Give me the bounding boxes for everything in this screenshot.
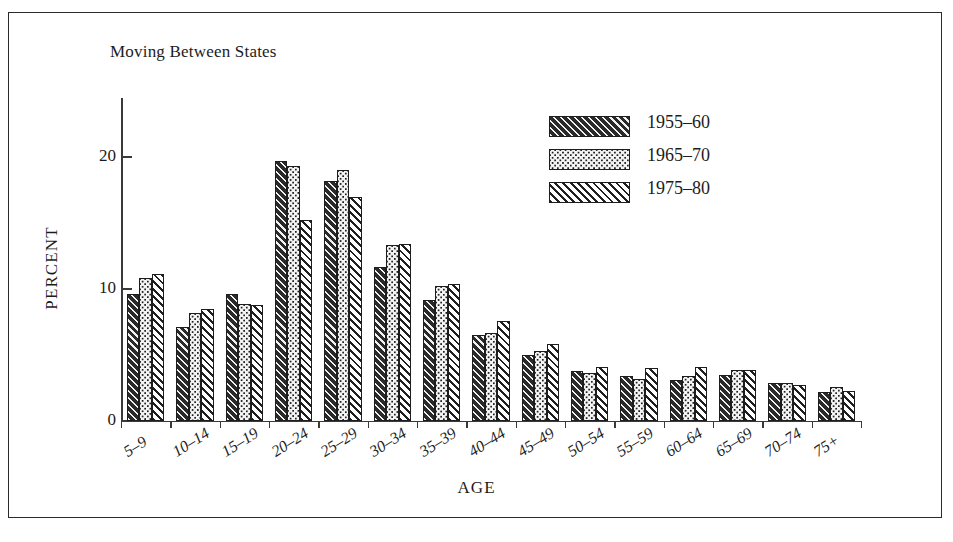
x-tick — [466, 421, 467, 428]
bar — [818, 392, 830, 421]
bar — [534, 351, 546, 421]
bar — [201, 309, 213, 421]
bar — [596, 367, 608, 421]
x-tick — [516, 421, 517, 428]
figure-root: Moving Between States 01020 PERCENT AGE … — [0, 0, 953, 542]
x-tick-label: 5–9 — [120, 433, 150, 461]
x-tick — [565, 421, 566, 428]
x-tick-label: 10–14 — [169, 424, 212, 460]
bar — [497, 321, 509, 421]
bar — [176, 327, 188, 421]
x-tick-label: 45–49 — [515, 424, 558, 460]
bar — [633, 379, 645, 421]
bar — [695, 367, 707, 421]
bar — [793, 385, 805, 421]
legend-swatch — [549, 116, 630, 137]
x-tick — [170, 421, 171, 428]
x-tick-label: 75+ — [811, 431, 843, 460]
x-axis-title: AGE — [0, 478, 953, 498]
bar — [731, 370, 743, 421]
plot-area: 01020 PERCENT AGE 5–910–1415–1920–2425–2… — [0, 0, 953, 542]
bar — [571, 371, 583, 421]
x-tick — [121, 421, 122, 428]
legend-label: 1975–80 — [647, 178, 710, 199]
bar — [399, 244, 411, 421]
x-tick — [220, 421, 221, 428]
x-tick — [762, 421, 763, 428]
bar — [744, 370, 756, 421]
x-tick — [664, 421, 665, 428]
x-tick-label: 60–64 — [663, 424, 706, 460]
bar — [620, 376, 632, 421]
bar — [337, 170, 349, 421]
bar — [300, 220, 312, 421]
bar — [583, 373, 595, 421]
bar — [349, 197, 361, 421]
x-tick — [269, 421, 270, 428]
x-tick-label: 25–29 — [317, 424, 360, 460]
bar — [287, 166, 299, 421]
bar — [485, 333, 497, 421]
bar — [386, 245, 398, 421]
bar — [139, 278, 151, 421]
bars-layer — [0, 0, 953, 421]
bar — [843, 391, 855, 421]
x-tick-label: 15–19 — [219, 424, 262, 460]
bar — [275, 161, 287, 421]
bar — [547, 344, 559, 421]
bar — [781, 383, 793, 421]
legend-label: 1965–70 — [647, 145, 710, 166]
x-tick-label: 65–69 — [712, 424, 755, 460]
legend-swatch — [549, 182, 630, 203]
legend-swatch — [549, 149, 630, 170]
bar — [251, 305, 263, 421]
x-tick — [318, 421, 319, 428]
x-tick — [861, 421, 862, 428]
x-tick-label: 20–24 — [268, 424, 311, 460]
x-tick — [614, 421, 615, 428]
bar — [423, 300, 435, 421]
x-tick-label: 70–74 — [761, 424, 804, 460]
bar — [670, 380, 682, 421]
x-tick — [417, 421, 418, 428]
bar — [448, 284, 460, 421]
bar — [374, 267, 386, 421]
bar — [522, 355, 534, 421]
bar — [189, 313, 201, 421]
bar — [472, 335, 484, 421]
bar — [645, 368, 657, 421]
bar — [238, 304, 250, 421]
bar — [682, 376, 694, 421]
bar — [435, 286, 447, 421]
legend-label: 1955–60 — [647, 112, 710, 133]
x-tick-label: 40–44 — [465, 424, 508, 460]
bar — [127, 294, 139, 421]
bar — [324, 181, 336, 421]
x-tick — [713, 421, 714, 428]
x-tick-label: 30–34 — [367, 424, 410, 460]
x-tick-label: 50–54 — [564, 424, 607, 460]
x-tick-label: 55–59 — [613, 424, 656, 460]
x-tick — [368, 421, 369, 428]
bar — [152, 274, 164, 421]
bar — [719, 375, 731, 421]
bar — [768, 383, 780, 421]
x-tick-label: 35–39 — [416, 424, 459, 460]
bar — [830, 387, 842, 421]
x-tick — [812, 421, 813, 428]
bar — [226, 294, 238, 421]
